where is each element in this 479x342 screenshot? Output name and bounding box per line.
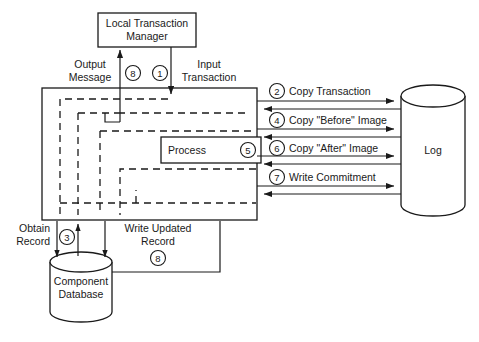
step-circle-input-transaction: 1: [153, 66, 168, 81]
write-updated-record-label-line1: Write Updated: [125, 222, 192, 234]
input-transaction-label-line2: Transaction: [182, 71, 237, 83]
diagram-canvas: 8 1 2 4 6 7 5 3: [0, 0, 479, 342]
write-commitment-label: Write Commitment: [289, 171, 376, 183]
step-number-8-output: 8: [130, 68, 135, 79]
step-number-2: 2: [274, 86, 279, 97]
transaction-flow-diagram: 8 1 2 4 6 7 5 3: [0, 0, 479, 342]
step-number-8-write: 8: [155, 253, 160, 264]
step-circle-write-commitment: 7: [270, 170, 285, 185]
process-label: Process: [168, 144, 206, 156]
step-number-3: 3: [64, 232, 69, 243]
step-circle-copy-transaction: 2: [270, 84, 285, 99]
local-transaction-manager-label-line1: Local Transaction: [106, 17, 188, 29]
step-circle-copy-after-image: 6: [270, 141, 285, 156]
local-transaction-manager-label-line2: Manager: [126, 30, 168, 42]
step-circle-write-updated-record: 8: [151, 251, 166, 266]
step-number-4: 4: [274, 115, 279, 126]
step-circle-obtain-record: 3: [60, 230, 75, 245]
component-database-label-line2: Database: [59, 288, 104, 300]
step-circle-output-message: 8: [126, 66, 141, 81]
input-transaction-label-line1: Input: [197, 58, 220, 70]
copy-before-image-label: Copy "Before" Image: [289, 114, 387, 126]
copy-transaction-label: Copy Transaction: [289, 85, 371, 97]
component-database-label-line1: Component: [54, 275, 108, 287]
step-circle-copy-before-image: 4: [270, 113, 285, 128]
step-circle-process: 5: [241, 143, 256, 158]
obtain-record-label-line1: Obtain: [19, 222, 50, 234]
log-label: Log: [424, 144, 442, 156]
step-number-1-input: 1: [157, 68, 162, 79]
copy-after-image-label: Copy "After" Image: [289, 142, 378, 154]
step-number-6: 6: [274, 143, 279, 154]
step-number-5: 5: [245, 145, 250, 156]
write-updated-record-label-line2: Record: [141, 235, 175, 247]
step-number-7: 7: [274, 172, 279, 183]
output-message-label-line2: Message: [69, 71, 112, 83]
output-message-label-line1: Output: [74, 58, 106, 70]
component-database-cylinder: [50, 252, 112, 322]
obtain-record-label-line2: Record: [16, 235, 50, 247]
